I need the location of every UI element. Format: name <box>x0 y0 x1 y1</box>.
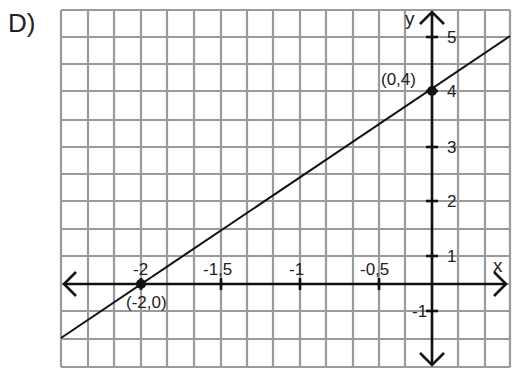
y-tick-label: -1 <box>412 302 427 321</box>
data-points: (-2,0) (0,4) <box>126 70 437 312</box>
y-tick-label: 4 <box>447 82 456 101</box>
point-marker <box>427 86 437 96</box>
grid <box>61 10 510 367</box>
y-tick-label: 5 <box>447 28 456 47</box>
x-axis-label: x <box>493 255 503 276</box>
y-tick-label: 2 <box>447 192 456 211</box>
point-label: (-2,0) <box>126 293 167 312</box>
x-tick-label: -0,5 <box>360 260 389 279</box>
x-tick-label: -1,5 <box>203 260 232 279</box>
x-tick-label: -1 <box>289 260 304 279</box>
x-tick-label: -2 <box>133 260 148 279</box>
chart: x y -2 -1,5 -1 -0,5 5 4 3 2 1 -1 (-2, <box>0 0 516 389</box>
y-tick-label: 1 <box>447 247 456 266</box>
point-marker <box>136 279 146 289</box>
x-axis: x <box>64 255 506 296</box>
point-label: (0,4) <box>381 70 416 89</box>
y-axis-label: y <box>405 8 415 29</box>
y-tick-label: 3 <box>447 138 456 157</box>
